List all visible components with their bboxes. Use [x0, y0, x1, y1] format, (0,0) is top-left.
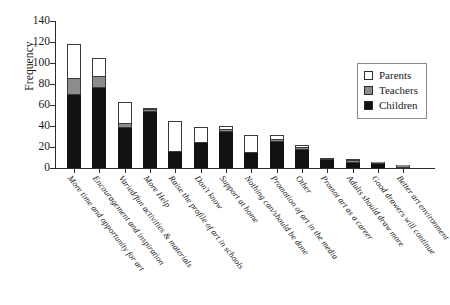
- bar-segment-children: [270, 142, 284, 168]
- bar-chart: Frequency 020406080100120140 More time a…: [0, 0, 450, 305]
- bar-segment-teachers: [92, 77, 106, 89]
- x-tick-mark: [327, 169, 328, 173]
- legend-item-parents: Parents: [364, 68, 418, 83]
- y-tick-mark: [50, 168, 55, 169]
- bar-stack: [270, 135, 284, 169]
- x-tick-label: Don't know: [193, 174, 224, 211]
- bar-segment-children: [244, 153, 258, 168]
- bar-stack: [244, 135, 258, 168]
- x-tick-label: Promotion of art in the media: [269, 174, 340, 261]
- x-tick-label: More Help: [142, 174, 172, 209]
- legend-label-children: Children: [379, 100, 418, 111]
- x-tick-label: Better art environment: [396, 174, 450, 242]
- y-tick-label: 80: [22, 78, 50, 90]
- bar-stack: [168, 121, 182, 168]
- bar-segment-children: [371, 164, 385, 168]
- x-tick-mark: [99, 169, 100, 173]
- chart-legend: Parents Teachers Children: [357, 63, 427, 119]
- y-axis-tick-labels: 020406080100120140: [22, 0, 50, 305]
- bar-segment-children: [168, 152, 182, 168]
- x-tick-mark: [74, 169, 75, 173]
- x-tick-label: Varied/fun activities & materials: [117, 174, 194, 269]
- bar-segment-children: [194, 143, 208, 168]
- x-tick-label: Nothing can/should be done: [244, 174, 311, 257]
- bar-segment-children: [143, 112, 157, 168]
- bar-segment-children: [320, 160, 334, 168]
- legend-swatch-teachers-icon: [364, 86, 373, 95]
- x-tick-mark: [175, 169, 176, 173]
- bar-segment-children: [346, 163, 360, 168]
- bar-segment-children: [118, 128, 132, 168]
- x-tick-label: Adults should draw more: [345, 174, 406, 248]
- y-tick-label: 0: [22, 162, 50, 174]
- x-tick-label: Encouragement and inspiration: [92, 174, 167, 267]
- bar-segment-children: [67, 95, 81, 169]
- bar-stack: [194, 127, 208, 168]
- bar-stack: [295, 145, 309, 168]
- y-tick-label: 40: [22, 120, 50, 132]
- bar-stack: [92, 58, 106, 168]
- bar-segment-parents: [194, 127, 208, 143]
- bar-segment-children: [219, 132, 233, 168]
- bar-stack: [219, 126, 233, 168]
- y-tick-label: 60: [22, 99, 50, 111]
- bar-stack: [346, 159, 360, 168]
- bar-stack: [320, 158, 334, 168]
- x-tick-mark: [403, 169, 404, 173]
- bar-segment-teachers: [67, 79, 81, 95]
- bar-stack: [396, 165, 410, 168]
- bar-segment-parents: [118, 102, 132, 124]
- legend-label-teachers: Teachers: [379, 85, 418, 96]
- y-tick-label: 20: [22, 141, 50, 153]
- legend-label-parents: Parents: [379, 70, 411, 81]
- x-tick-label: Promot art as a career: [320, 174, 376, 242]
- y-tick-label: 140: [22, 15, 50, 27]
- bar-segment-teachers: [396, 165, 410, 168]
- bar-stack: [118, 102, 132, 168]
- x-tick-mark: [353, 169, 354, 173]
- bar-segment-parents: [67, 44, 81, 79]
- x-tick-mark: [150, 169, 151, 173]
- x-tick-mark: [277, 169, 278, 173]
- x-tick-label: More time and opportunity for art: [66, 174, 146, 273]
- x-tick-mark: [201, 169, 202, 173]
- legend-swatch-parents-icon: [364, 71, 373, 80]
- x-tick-label: Other: [294, 174, 313, 195]
- x-tick-label: Good drawers will continue: [370, 174, 437, 256]
- x-tick-label: Raise the profile of art in schools: [168, 174, 246, 271]
- bar-segment-children: [295, 150, 309, 168]
- bar-stack: [371, 162, 385, 168]
- x-tick-label: Support at home: [218, 174, 260, 225]
- x-tick-mark: [125, 169, 126, 173]
- bar-stack: [143, 108, 157, 168]
- x-tick-mark: [251, 169, 252, 173]
- legend-item-children: Children: [364, 98, 418, 113]
- legend-item-teachers: Teachers: [364, 83, 418, 98]
- bar-stack: [67, 44, 81, 168]
- y-tick-label: 100: [22, 57, 50, 69]
- y-tick-label: 120: [22, 36, 50, 48]
- x-tick-mark: [378, 169, 379, 173]
- bar-segment-parents: [244, 135, 258, 153]
- bar-segment-children: [92, 88, 106, 168]
- legend-swatch-children-icon: [364, 101, 373, 110]
- x-tick-mark: [226, 169, 227, 173]
- bar-segment-parents: [168, 121, 182, 153]
- bar-segment-parents: [92, 58, 106, 77]
- x-tick-mark: [302, 169, 303, 173]
